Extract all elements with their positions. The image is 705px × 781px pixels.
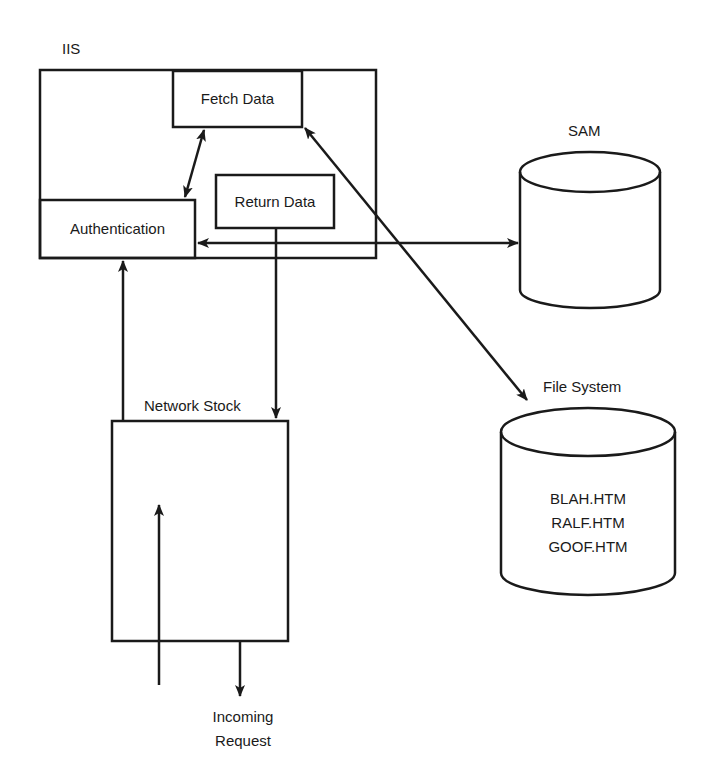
file-item: BLAH.HTM [501, 487, 675, 511]
sam-label: SAM [568, 122, 601, 140]
iis-label: IIS [62, 40, 80, 58]
network-stack-label: Network Stock [144, 397, 241, 415]
file-item: GOOF.HTM [501, 535, 675, 559]
arrow-fetch-auth [185, 130, 204, 197]
incoming-request-label: Incoming Request [200, 705, 286, 753]
incoming-request-line1: Incoming [200, 705, 286, 729]
incoming-request-line2: Request [200, 729, 286, 753]
fetch-data-label: Fetch Data [173, 90, 302, 108]
arrow-fetch-filesystem [305, 128, 527, 400]
file-system-label: File System [543, 378, 621, 396]
authentication-label: Authentication [40, 220, 195, 238]
return-data-label: Return Data [216, 193, 334, 211]
network-stack-box [112, 421, 288, 641]
file-item: RALF.HTM [501, 511, 675, 535]
sam-cylinder [520, 152, 660, 308]
file-list: BLAH.HTM RALF.HTM GOOF.HTM [501, 487, 675, 559]
